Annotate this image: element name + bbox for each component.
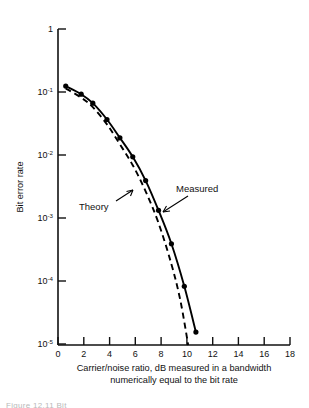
y-tick-label-2: 10-2 [37, 149, 53, 161]
x-tick-label-12: 12 [208, 349, 218, 359]
x-axis-tick-labels: 0 2 4 6 8 10 12 14 16 18 [55, 349, 295, 359]
measured-arrow-head [163, 206, 170, 212]
page-caption-partial: Figure 12.11 Bit [6, 401, 67, 408]
x-tick-label-0: 0 [55, 349, 60, 359]
x-tick-label-4: 4 [107, 349, 112, 359]
x-axis-title: Carrier/noise ratio, dB measured in a ba… [77, 363, 272, 385]
data-point-marker [90, 101, 95, 106]
data-point-marker [130, 154, 135, 159]
x-axis-ticks [58, 337, 290, 345]
measured-label: Measured [176, 183, 218, 194]
annotation-measured: Measured [163, 183, 218, 212]
measured-leader-line [163, 196, 188, 212]
data-point-marker [117, 135, 122, 140]
theory-curve [66, 88, 188, 345]
x-tick-label-14: 14 [233, 349, 243, 359]
x-tick-label-8: 8 [159, 349, 164, 359]
data-point-marker [79, 92, 84, 97]
x-tick-label-10: 10 [182, 349, 192, 359]
y-tick-label-1: 10-1 [37, 86, 53, 98]
ber-chart-svg: 1 10-1 10-2 10-3 10-4 10-5 0 2 4 6 8 [0, 0, 309, 408]
y-axis-ticks [58, 29, 66, 344]
x-tick-label-2: 2 [81, 349, 86, 359]
chart-figure: 1 10-1 10-2 10-3 10-4 10-5 0 2 4 6 8 [0, 0, 309, 408]
x-tick-label-18: 18 [285, 349, 295, 359]
data-point-marker [169, 241, 174, 246]
y-tick-label-4: 10-4 [37, 275, 53, 287]
y-axis-title: Bit error rate [15, 161, 25, 212]
x-axis-title-line1: Carrier/noise ratio, dB measured in a ba… [77, 363, 272, 373]
x-tick-label-16: 16 [259, 349, 269, 359]
annotation-theory: Theory [79, 190, 133, 212]
data-point-marker [182, 284, 187, 289]
theory-label: Theory [79, 201, 109, 212]
y-tick-label-5: 10-5 [37, 338, 53, 350]
x-tick-label-6: 6 [133, 349, 138, 359]
y-axis-tick-labels: 1 10-1 10-2 10-3 10-4 10-5 [37, 24, 53, 349]
axis-lines [58, 29, 290, 345]
y-tick-label-3: 10-3 [37, 212, 53, 224]
x-axis-title-line2: numerically equal to the bit rate [110, 375, 238, 385]
y-tick-label-0: 1 [48, 24, 53, 34]
data-series-group [63, 83, 198, 345]
data-point-marker [156, 208, 161, 213]
data-point-marker [104, 117, 109, 122]
data-point-marker [143, 178, 148, 183]
data-point-marker [63, 83, 68, 88]
data-point-marker [193, 330, 198, 335]
